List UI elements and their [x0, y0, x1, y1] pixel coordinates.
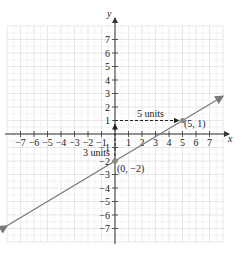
x-tick-label: 3: [153, 137, 158, 148]
y-tick-label: 7: [105, 34, 110, 45]
x-tick-label: 6: [194, 137, 199, 148]
y-tick-label: −7: [99, 223, 110, 234]
x-tick-label: −7: [15, 137, 26, 148]
y-axis-label: y: [106, 8, 112, 19]
y-tick-label: −5: [99, 196, 110, 207]
x-tick-label: 7: [207, 137, 212, 148]
point-a-label: (0, −2): [117, 163, 144, 175]
x-axis-label: x: [227, 133, 233, 144]
x-tick-label: 4: [167, 137, 172, 148]
x-tick-label: −4: [56, 137, 67, 148]
x-tick-label: −3: [69, 137, 80, 148]
axes: [5, 18, 229, 244]
y-tick-label: 6: [105, 48, 110, 59]
coordinate-plane: −7−6−5−4−3−2−11234567−7−6−5−4−3−2−112345…: [0, 0, 243, 253]
x-tick-label: −5: [42, 137, 53, 148]
y-tick-label: 5: [105, 61, 110, 72]
y-tick-label: 1: [105, 115, 110, 126]
run-label: 5 units: [137, 108, 164, 119]
x-tick-label: 1: [126, 137, 131, 148]
x-tick-label: 5: [180, 137, 185, 148]
x-tick-label: −6: [29, 137, 40, 148]
y-tick-label: 2: [105, 102, 110, 113]
y-tick-label: 4: [105, 75, 110, 86]
rise-label: 3 units: [83, 147, 110, 158]
y-tick-label: −6: [99, 210, 110, 221]
y-tick-label: −3: [99, 169, 110, 180]
y-tick-label: 3: [105, 88, 110, 99]
y-tick-label: −4: [99, 183, 110, 194]
point-b-label: (5, 1): [184, 118, 206, 130]
